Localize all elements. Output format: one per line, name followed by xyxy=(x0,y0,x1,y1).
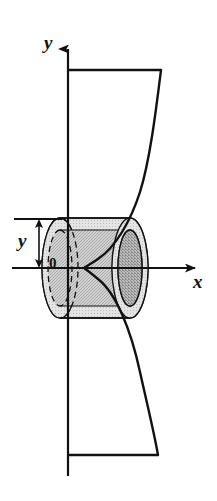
math-figure-shell-method: y x y 0 xyxy=(0,0,217,501)
y-measure-label: y xyxy=(18,231,26,250)
y-axis-label: y xyxy=(44,33,52,52)
x-axis-label: x xyxy=(193,272,203,291)
figure-canvas xyxy=(0,0,217,501)
origin-label: 0 xyxy=(49,256,57,271)
